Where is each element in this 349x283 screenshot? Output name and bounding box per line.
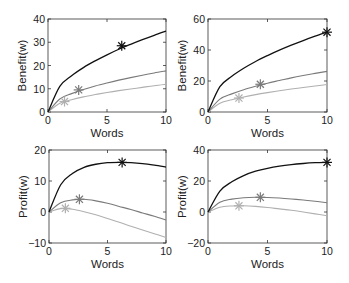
y-tick-label: 0 bbox=[199, 106, 205, 118]
y-axis-label: Benefit(w) bbox=[16, 39, 28, 91]
series-line-light bbox=[49, 208, 166, 237]
figure-canvas: 0510010203040WordsBenefit(w) 05100204060… bbox=[0, 0, 349, 283]
y-tick-label: 40 bbox=[33, 13, 45, 25]
y-tick-label: 60 bbox=[193, 13, 205, 25]
y-axis-label: Benefit(w) bbox=[176, 39, 188, 91]
axes-frame bbox=[48, 19, 166, 112]
y-tick-label: 20 bbox=[193, 75, 205, 87]
y-tick-label: 0 bbox=[40, 206, 46, 218]
x-tick-label: 10 bbox=[160, 114, 172, 126]
y-tick-label: 40 bbox=[193, 44, 205, 56]
plot-profit-right: 0510−2002040WordsProfit(w) bbox=[176, 144, 333, 270]
plot-profit-left: 0510−1001020WordsProfit(w) bbox=[17, 144, 172, 270]
axes-frame bbox=[208, 19, 327, 112]
series-line-medium bbox=[208, 71, 327, 112]
series-line-medium bbox=[208, 197, 327, 212]
y-tick-label: 30 bbox=[33, 36, 45, 48]
y-tick-label: −20 bbox=[187, 237, 205, 249]
series-line-dark bbox=[208, 32, 327, 112]
x-tick-label: 10 bbox=[321, 245, 333, 257]
y-axis-label: Profit(w) bbox=[176, 175, 188, 218]
x-tick-label: 5 bbox=[105, 245, 111, 257]
y-tick-label: 20 bbox=[34, 144, 46, 156]
asterisk-marker-icon bbox=[322, 27, 332, 37]
asterisk-marker-icon bbox=[234, 93, 244, 103]
x-tick-label: 0 bbox=[205, 114, 211, 126]
asterisk-marker-icon bbox=[117, 157, 127, 167]
x-tick-label: 5 bbox=[265, 114, 271, 126]
y-tick-label: 0 bbox=[39, 106, 45, 118]
plot-benefit-left: 0510010203040WordsBenefit(w) bbox=[16, 13, 172, 139]
x-tick-label: 0 bbox=[45, 114, 51, 126]
x-tick-label: 10 bbox=[160, 245, 172, 257]
x-axis-label: Words bbox=[91, 258, 124, 270]
series-line-medium bbox=[48, 71, 166, 112]
x-tick-label: 0 bbox=[205, 245, 211, 257]
x-tick-label: 5 bbox=[104, 114, 110, 126]
asterisk-marker-icon bbox=[322, 157, 332, 167]
asterisk-marker-icon bbox=[74, 194, 84, 204]
asterisk-marker-icon bbox=[60, 203, 70, 213]
x-tick-label: 0 bbox=[46, 245, 52, 257]
x-tick-label: 5 bbox=[265, 245, 271, 257]
x-axis-label: Words bbox=[251, 127, 284, 139]
asterisk-marker-icon bbox=[255, 79, 265, 89]
x-axis-label: Words bbox=[90, 127, 123, 139]
y-tick-label: 20 bbox=[33, 60, 45, 72]
y-tick-label: 40 bbox=[193, 144, 205, 156]
plot-benefit-right: 05100204060WordsBenefit(w) bbox=[176, 13, 333, 139]
y-tick-label: 0 bbox=[199, 206, 205, 218]
series-line-light bbox=[208, 85, 327, 112]
y-axis-label: Profit(w) bbox=[17, 175, 29, 218]
series-line-light bbox=[208, 206, 327, 216]
series-line-dark bbox=[208, 162, 327, 212]
y-tick-label: 10 bbox=[34, 175, 46, 187]
y-tick-label: 10 bbox=[33, 83, 45, 95]
asterisk-marker-icon bbox=[60, 97, 70, 107]
y-tick-label: 20 bbox=[193, 175, 205, 187]
asterisk-marker-icon bbox=[234, 201, 244, 211]
series-line-light bbox=[48, 84, 166, 112]
axes-frame bbox=[208, 150, 327, 243]
y-tick-label: −10 bbox=[28, 237, 46, 249]
series-line-dark bbox=[49, 162, 166, 212]
x-tick-label: 10 bbox=[321, 114, 333, 126]
asterisk-marker-icon bbox=[255, 192, 265, 202]
asterisk-marker-icon bbox=[117, 41, 127, 51]
x-axis-label: Words bbox=[251, 258, 284, 270]
asterisk-marker-icon bbox=[74, 85, 84, 95]
